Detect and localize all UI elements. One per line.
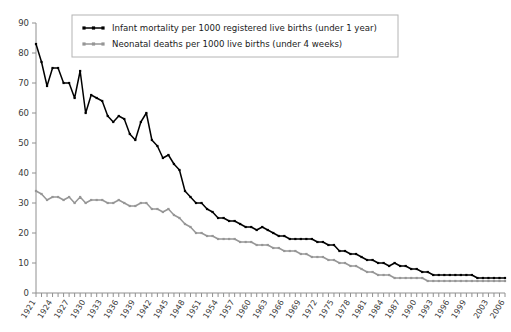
data-point xyxy=(388,274,390,276)
data-point xyxy=(200,202,202,204)
data-point xyxy=(267,244,269,246)
data-point xyxy=(85,202,87,204)
data-point xyxy=(145,112,147,114)
y-axis-tick-label: 20 xyxy=(18,228,29,238)
data-series-group xyxy=(35,43,506,282)
data-point xyxy=(156,145,158,147)
data-point xyxy=(305,238,307,240)
x-axis-tick-label: 1951 xyxy=(185,298,203,320)
data-point xyxy=(460,274,462,276)
data-point xyxy=(189,226,191,228)
data-point xyxy=(405,265,407,267)
data-point xyxy=(421,271,423,273)
series-line xyxy=(36,191,505,281)
data-point xyxy=(112,202,114,204)
data-point xyxy=(96,199,98,201)
legend-box xyxy=(72,15,398,57)
data-point xyxy=(493,277,495,279)
data-point xyxy=(261,244,263,246)
data-point xyxy=(272,247,274,249)
data-point xyxy=(151,139,153,141)
data-point xyxy=(322,256,324,258)
data-point xyxy=(338,250,340,252)
data-point xyxy=(90,94,92,96)
data-point xyxy=(85,112,87,114)
x-axis-tick-label: 1927 xyxy=(52,298,70,320)
data-point xyxy=(140,202,142,204)
data-point xyxy=(211,235,213,237)
x-axis-tick-label: 1981 xyxy=(350,298,368,320)
data-point xyxy=(178,169,180,171)
data-point xyxy=(278,247,280,249)
series-infant-mortality xyxy=(35,43,506,279)
data-point xyxy=(338,262,340,264)
data-point xyxy=(57,67,59,69)
data-point xyxy=(256,229,258,231)
series-line xyxy=(36,44,505,278)
data-point xyxy=(62,82,64,84)
data-point xyxy=(344,250,346,252)
data-point xyxy=(228,238,230,240)
x-axis-tick-label: 1966 xyxy=(268,298,286,320)
data-point xyxy=(184,190,186,192)
y-axis-tick-label: 70 xyxy=(18,78,29,88)
data-point xyxy=(79,70,81,72)
data-point xyxy=(388,265,390,267)
data-point xyxy=(471,280,473,282)
data-point xyxy=(294,238,296,240)
data-point xyxy=(471,274,473,276)
data-point xyxy=(223,238,225,240)
data-point xyxy=(239,241,241,243)
data-point xyxy=(383,262,385,264)
data-point xyxy=(118,115,120,117)
data-point xyxy=(195,202,197,204)
x-axis-tick-label: 1945 xyxy=(152,298,170,320)
data-point xyxy=(68,196,70,198)
data-point xyxy=(449,274,451,276)
data-point xyxy=(498,280,500,282)
data-point xyxy=(245,226,247,228)
data-point xyxy=(118,199,120,201)
x-axis-tick-label: 1990 xyxy=(400,298,418,320)
data-point xyxy=(272,232,274,234)
data-point xyxy=(283,250,285,252)
x-axis-tick-label: 1939 xyxy=(119,298,137,320)
data-point xyxy=(234,220,236,222)
data-point xyxy=(129,205,131,207)
y-axis-tick-label: 80 xyxy=(18,48,29,58)
x-axis-tick-label: 1942 xyxy=(135,298,153,320)
data-point xyxy=(40,61,42,63)
x-axis-tick-label: 1948 xyxy=(168,298,186,320)
data-point xyxy=(189,196,191,198)
data-point xyxy=(123,118,125,120)
x-axis-tick-label: 1972 xyxy=(301,298,319,320)
data-point xyxy=(443,274,445,276)
data-point xyxy=(167,154,169,156)
data-point xyxy=(427,271,429,273)
data-point xyxy=(156,208,158,210)
data-point xyxy=(371,271,373,273)
data-point xyxy=(416,277,418,279)
data-point xyxy=(167,208,169,210)
data-point xyxy=(79,196,81,198)
data-point xyxy=(333,259,335,261)
data-point xyxy=(476,277,478,279)
x-axis-tick-label: 1954 xyxy=(201,298,219,320)
data-point xyxy=(134,205,136,207)
x-axis-tick-label: 2003 xyxy=(472,298,490,320)
data-point xyxy=(162,157,164,159)
legend-point-marker xyxy=(92,42,95,45)
legend-point-marker xyxy=(101,42,104,45)
data-point xyxy=(278,235,280,237)
data-point xyxy=(322,241,324,243)
data-point xyxy=(410,277,412,279)
data-point xyxy=(311,256,313,258)
data-point xyxy=(349,265,351,267)
data-point xyxy=(443,280,445,282)
data-point xyxy=(377,262,379,264)
data-point xyxy=(360,256,362,258)
data-point xyxy=(46,199,48,201)
data-point xyxy=(195,232,197,234)
data-point xyxy=(504,277,506,279)
data-point xyxy=(383,274,385,276)
